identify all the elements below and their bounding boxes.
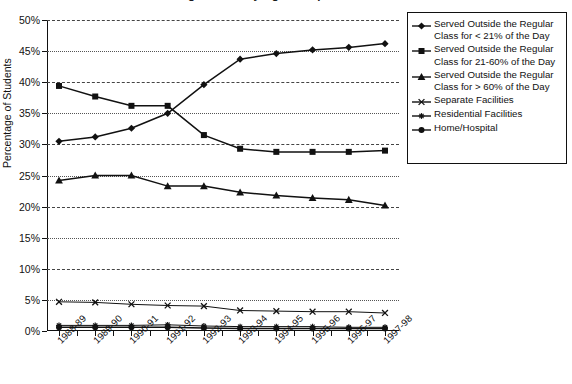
- legend-label-line2: Class for > 60% of the Day: [434, 81, 554, 93]
- x-axis-tick-minor: [113, 331, 114, 336]
- data-point-diamond: [55, 138, 62, 145]
- legend-marker-triangle-icon: [411, 69, 433, 82]
- y-axis-tick-label: 50%: [6, 14, 40, 26]
- data-point-square: [201, 132, 207, 138]
- data-point-circle: [56, 324, 62, 330]
- series-line: [59, 86, 385, 152]
- data-point-diamond: [418, 22, 425, 29]
- x-axis-tick-minor: [222, 331, 223, 336]
- series-0: [55, 40, 388, 145]
- legend-label-line1: Served Outside the Regular: [434, 43, 555, 55]
- legend-label: Residential Facilities: [433, 108, 522, 120]
- y-axis-tick-label: 10%: [6, 263, 40, 275]
- data-point-diamond: [128, 125, 135, 132]
- y-axis-tick-label: 5%: [6, 294, 40, 306]
- series-1: [56, 83, 388, 155]
- y-axis-tick: [42, 331, 47, 332]
- legend-label-line1: Served Outside the Regular: [434, 18, 554, 30]
- legend-marker-circle-icon: [411, 122, 433, 135]
- series-line: [59, 176, 385, 206]
- legend-label: Separate Facilities: [433, 94, 514, 106]
- y-axis-tick-label: 35%: [6, 107, 40, 119]
- legend-marker-asterisk-icon: [411, 108, 433, 121]
- y-axis-tick-label: 15%: [6, 232, 40, 244]
- legend-marker-square-icon: [411, 43, 433, 56]
- legend-label-line2: Class for 21-60% of the Day: [434, 56, 555, 68]
- x-axis-tick-minor: [77, 331, 78, 336]
- legend-marker-cross-icon: [411, 94, 433, 107]
- chart-page: Students Age 6 to 21 by Age Group Percen…: [0, 0, 572, 384]
- data-point-circle: [165, 324, 171, 330]
- data-point-square: [92, 94, 98, 100]
- data-point-square: [273, 149, 279, 155]
- legend-label: Served Outside the RegularClass for < 21…: [433, 18, 554, 42]
- x-axis-tick-minor: [294, 331, 295, 336]
- legend-label-line1: Residential Facilities: [434, 108, 522, 120]
- x-axis-tick-minor: [367, 331, 368, 336]
- plot-area: 0%5%10%15%20%25%30%35%40%45%50%: [47, 20, 399, 331]
- data-point-square: [346, 149, 352, 155]
- data-point-circle: [201, 325, 207, 331]
- legend-label: Served Outside the RegularClass for 21-6…: [433, 43, 555, 67]
- y-axis-tick-label: 0%: [6, 325, 40, 337]
- data-point-diamond: [381, 40, 388, 47]
- data-point-square: [165, 103, 171, 109]
- legend-marker-diamond-icon: [411, 18, 433, 31]
- series-layer: [47, 20, 399, 331]
- data-point-square: [128, 103, 134, 109]
- data-point-circle: [419, 127, 425, 133]
- legend-item[interactable]: Served Outside the RegularClass for > 60…: [411, 69, 562, 93]
- data-point-diamond: [309, 46, 316, 53]
- y-axis-tick-label: 30%: [6, 138, 40, 150]
- data-point-circle: [92, 324, 98, 330]
- chart-legend: Served Outside the RegularClass for < 21…: [407, 12, 567, 164]
- series-line: [59, 44, 385, 142]
- y-axis-tick-label: 20%: [6, 201, 40, 213]
- legend-item[interactable]: Separate Facilities: [411, 94, 562, 107]
- legend-label-line1: Served Outside the Regular: [434, 69, 554, 81]
- y-axis-tick-label: 45%: [6, 45, 40, 57]
- y-axis-tick-label: 40%: [6, 76, 40, 88]
- data-point-diamond: [273, 50, 280, 57]
- legend-item[interactable]: Served Outside the RegularClass for 21-6…: [411, 43, 562, 67]
- x-axis-tick-minor: [150, 331, 151, 336]
- legend-label: Home/Hospital: [433, 122, 498, 134]
- legend-label-line1: Home/Hospital: [434, 122, 498, 134]
- x-axis-tick-minor: [186, 331, 187, 336]
- legend-label-line2: Class for < 21% of the Day: [434, 30, 554, 42]
- data-point-square: [56, 83, 62, 89]
- chart-title: Students Age 6 to 21 by Age Group: [60, 0, 390, 3]
- legend-item[interactable]: Home/Hospital: [411, 122, 562, 135]
- legend-label-line1: Separate Facilities: [434, 94, 514, 106]
- y-axis-tick-label: 25%: [6, 170, 40, 182]
- series-2: [55, 172, 389, 209]
- data-point-square: [419, 48, 425, 54]
- legend-label: Served Outside the RegularClass for > 60…: [433, 69, 554, 93]
- legend-item[interactable]: Residential Facilities: [411, 108, 562, 121]
- legend-item[interactable]: Served Outside the RegularClass for < 21…: [411, 18, 562, 42]
- series-line: [59, 302, 385, 313]
- data-point-diamond: [92, 133, 99, 140]
- data-point-square: [382, 148, 388, 154]
- data-point-circle: [128, 324, 134, 330]
- x-axis-tick-minor: [258, 331, 259, 336]
- series-3: [56, 299, 388, 316]
- data-point-diamond: [345, 44, 352, 51]
- data-point-asterisk: [419, 113, 425, 119]
- data-point-square: [310, 149, 316, 155]
- data-point-square: [237, 146, 243, 152]
